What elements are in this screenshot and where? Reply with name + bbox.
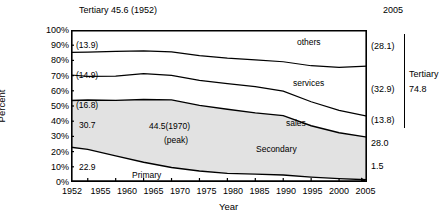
x-tick-1990: 1990 (276, 186, 296, 196)
y-tick-30: 30% (51, 131, 69, 141)
y-tick-50: 50% (51, 101, 69, 111)
x-tick-2000: 2000 (329, 186, 349, 196)
left-value-secondary: 30.7 (79, 121, 96, 130)
area-label-primary: Primary (132, 171, 161, 180)
right-value-others: (28.1) (371, 41, 395, 51)
x-tick-1980: 1980 (223, 186, 243, 196)
x-tick-1975: 1975 (196, 186, 216, 196)
left-value-others: (13.9) (76, 41, 98, 50)
x-tick-1970: 1970 (170, 186, 190, 196)
right-value-primary: 1.5 (371, 161, 384, 171)
area-label-services: services (293, 79, 324, 88)
left-value-primary: 22.9 (79, 163, 96, 172)
y-tick-100: 100% (46, 25, 69, 35)
y-tick-80: 80% (51, 55, 69, 65)
y-tick-20: 20% (51, 147, 69, 157)
left-value-services: (14.9) (76, 71, 98, 80)
area-label-secondary: Secondary (256, 145, 297, 154)
right-value-secondary: 28.0 (371, 138, 389, 148)
y-tick-10: 10% (51, 162, 69, 172)
y-tick-70: 70% (51, 71, 69, 81)
right-value-services: (32.9) (371, 84, 395, 94)
right-year-header: 2005 (383, 6, 403, 15)
area-label-sales: sales (286, 119, 306, 128)
boundary-services-top (71, 51, 367, 68)
x-tick-1995: 1995 (302, 186, 322, 196)
x-axis-tick-labels: 1952 1955 1960 1965 1970 1975 1980 1985 … (0, 186, 445, 200)
y-tick-40: 40% (51, 116, 69, 126)
stacked-area-svg (71, 30, 367, 182)
peak-value-annotation: 44.5(1970) (149, 122, 190, 131)
peak-note-annotation: (peak) (164, 136, 188, 145)
tertiary-bracket (404, 34, 405, 128)
y-tick-90: 90% (51, 40, 69, 50)
tertiary-bracket-label: Tertiary (409, 69, 439, 79)
x-tick-1960: 1960 (117, 186, 137, 196)
x-tick-2005: 2005 (355, 186, 375, 196)
y-tick-60: 60% (51, 86, 69, 96)
x-tick-1952: 1952 (62, 186, 82, 196)
secondary-area-fill (71, 99, 367, 179)
x-axis-title: Year (219, 201, 238, 212)
y-axis-tick-labels: 100% 90% 80% 70% 60% 50% 40% 30% 20% 10%… (0, 30, 69, 182)
tertiary-bracket-value: 74.8 (409, 84, 427, 94)
x-tick-1985: 1985 (249, 186, 269, 196)
x-tick-1965: 1965 (143, 186, 163, 196)
plot-area: others services sales Secondary Primary … (71, 30, 367, 182)
left-value-sales: (16.8) (76, 101, 98, 110)
area-label-others: others (297, 38, 321, 47)
chart-root: Tertiary 45.6 (1952) 2005 Percent 100% 9… (0, 0, 445, 222)
right-value-sales: (13.8) (371, 115, 395, 125)
chart-title: Tertiary 45.6 (1952) (79, 6, 157, 15)
x-tick-1955: 1955 (91, 186, 111, 196)
